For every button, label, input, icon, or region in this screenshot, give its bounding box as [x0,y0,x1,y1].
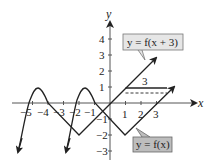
x-tick-label: −1 [84,106,96,118]
y-tick-label: 4 [99,33,105,45]
label-original: y = f(x) [133,128,172,152]
label-shifted: y = f(x + 3) [123,34,183,60]
x-axis-label: x [197,96,204,110]
graph: −5 −4 −3 −2 −1 1 2 3 4 3 2 1 −1 −2 −3 x … [0,0,216,165]
x-tick-label: −4 [37,106,49,118]
y-tick-labels: 4 3 2 1 −1 −2 −3 [96,33,108,157]
x-tick-label: 3 [153,108,159,120]
y-tick-label: −2 [96,129,108,141]
x-tick-label: −3 [53,106,65,118]
shift-amount-label: 3 [142,75,148,87]
y-tick-label: 2 [99,65,105,77]
x-tick-label: 1 [122,108,128,120]
label-shifted-text: y = f(x + 3) [127,36,178,49]
y-tick-label: 1 [99,81,105,93]
x-tick-labels: −5 −4 −3 −2 −1 1 2 3 [20,106,159,120]
y-tick-label: 3 [99,49,105,61]
y-tick-label: −3 [96,145,108,157]
label-original-text: y = f(x) [136,138,170,151]
y-axis-label: y [105,7,112,21]
